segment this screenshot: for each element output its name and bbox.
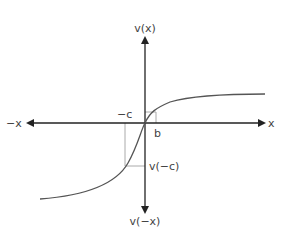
y-neg-label: v(−x)	[130, 215, 161, 228]
y-pos-label: v(x)	[134, 22, 156, 35]
diagram-canvas: v(x) v(−x) x −x −c b v(−c)	[0, 0, 283, 239]
v-neg-c-label: v(−c)	[149, 160, 179, 173]
value-curve	[40, 94, 265, 199]
neg-c-label: −c	[117, 108, 132, 121]
b-label: b	[154, 127, 161, 140]
x-pos-label: x	[268, 117, 275, 130]
x-neg-label: −x	[6, 117, 22, 130]
